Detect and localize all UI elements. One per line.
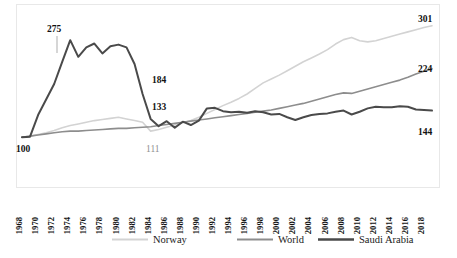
series-layer xyxy=(22,26,432,137)
x-tick-1992: 1992 xyxy=(207,217,217,234)
annotation-label-111: 111 xyxy=(146,144,160,154)
x-tick-1968: 1968 xyxy=(14,216,24,234)
x-tick-2012: 2012 xyxy=(368,217,378,234)
x-tick-2010: 2010 xyxy=(352,217,362,234)
chart-container: 275100184133111301224144 196819701972197… xyxy=(0,0,457,258)
x-tick-1990: 1990 xyxy=(191,217,201,234)
annotation-label-100: 100 xyxy=(16,144,31,154)
series-line-norway xyxy=(22,26,432,137)
x-tick-1998: 1998 xyxy=(255,216,265,234)
x-tick-1984: 1984 xyxy=(143,216,153,234)
x-tick-2008: 2008 xyxy=(336,216,346,234)
series-line-world xyxy=(22,68,432,137)
x-axis-labels: 1968197019721974197619781980198219841986… xyxy=(14,216,426,234)
x-tick-1974: 1974 xyxy=(62,216,72,234)
x-tick-2014: 2014 xyxy=(384,216,394,234)
x-tick-2006: 2006 xyxy=(320,216,330,234)
x-tick-2002: 2002 xyxy=(287,217,297,234)
annotation-label-301: 301 xyxy=(418,14,433,24)
x-tick-1988: 1988 xyxy=(175,216,185,234)
annotation-label-224: 224 xyxy=(418,64,433,74)
x-tick-1994: 1994 xyxy=(223,216,233,234)
annotation-label-275: 275 xyxy=(47,24,62,34)
x-tick-1996: 1996 xyxy=(239,216,249,234)
x-tick-2000: 2000 xyxy=(271,217,281,234)
x-tick-1970: 1970 xyxy=(30,217,40,234)
x-tick-1978: 1978 xyxy=(94,216,104,234)
line-chart: 275100184133111301224144 196819701972197… xyxy=(0,0,457,258)
legend-label-world: World xyxy=(278,234,305,245)
x-tick-1972: 1972 xyxy=(46,217,56,234)
x-tick-2004: 2004 xyxy=(303,216,313,234)
x-tick-1982: 1982 xyxy=(127,217,137,234)
x-tick-2018: 2018 xyxy=(416,216,426,234)
x-tick-1980: 1980 xyxy=(111,217,121,234)
plot-frame xyxy=(17,5,440,188)
legend-label-saudi-arabia: Saudi Arabia xyxy=(359,234,414,245)
annotation-label-144: 144 xyxy=(418,127,433,137)
x-tick-1986: 1986 xyxy=(159,216,169,234)
annotation-layer: 275100184133111301224144 xyxy=(16,14,433,154)
chart-legend: NorwayWorldSaudi Arabia xyxy=(112,234,414,245)
annotation-label-184: 184 xyxy=(152,75,167,85)
legend-label-norway: Norway xyxy=(153,234,188,245)
annotation-label-133: 133 xyxy=(152,102,167,112)
x-tick-1976: 1976 xyxy=(78,216,88,234)
x-tick-2016: 2016 xyxy=(400,216,410,234)
